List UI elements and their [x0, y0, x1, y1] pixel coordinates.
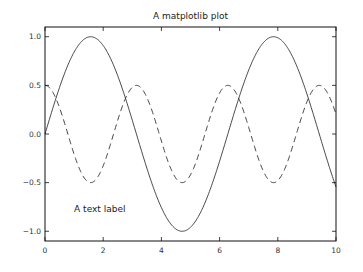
- x-tick-label: 0: [43, 246, 48, 255]
- x-tick-label: 8: [275, 246, 280, 255]
- y-tick-label: 0.5: [29, 81, 41, 90]
- x-tick-label: 4: [159, 246, 164, 255]
- x-tick-label: 2: [101, 246, 106, 255]
- y-tick-label: 0.0: [29, 130, 41, 139]
- x-tick-label: 6: [217, 246, 222, 255]
- y-tick-label: 1.0: [29, 32, 41, 41]
- plot-area: [45, 37, 336, 232]
- line-chart: A matplotlib plot 0246810 1.00.50.0−0.5−…: [0, 0, 363, 272]
- text-label-annotation: A text label: [74, 204, 125, 214]
- chart-title: A matplotlib plot: [153, 11, 228, 21]
- y-tick-label: −0.5: [23, 178, 41, 187]
- x-axis-ticks: 0246810: [43, 27, 341, 255]
- y-tick-label: −1.0: [23, 227, 41, 236]
- series-sin-solid: [45, 37, 336, 232]
- y-axis-ticks: 1.00.50.0−0.5−1.0: [23, 32, 336, 236]
- series-cos-dashed: [45, 85, 336, 182]
- x-tick-label: 10: [331, 246, 341, 255]
